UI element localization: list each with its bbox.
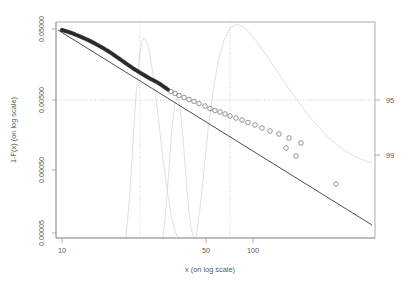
fitted-line [58, 30, 372, 225]
data-point [334, 182, 339, 187]
plot-canvas: 0.05000 0.00500 0.00050 0.00005 1-F(x) (… [0, 0, 412, 285]
data-points-dense [60, 28, 170, 91]
data-point [182, 95, 187, 100]
x-axis: 10 50 100 x (on log scale) [56, 238, 375, 274]
x-tick-label-0: 10 [58, 246, 66, 255]
data-point [268, 129, 273, 134]
band-curve-mid [163, 98, 195, 238]
confidence-band-curves [126, 24, 372, 238]
data-point [294, 154, 299, 159]
plot-frame [56, 22, 375, 238]
data-point [277, 132, 282, 137]
right-label-99: 99 [386, 151, 394, 160]
data-point [246, 120, 251, 125]
data-point [208, 106, 213, 111]
band-curve-right [196, 24, 372, 238]
reference-gridlines [56, 22, 375, 238]
data-points-sparse [169, 89, 339, 186]
y-tick-label-0: 0.05000 [37, 16, 46, 42]
y-axis: 0.05000 0.00500 0.00050 0.00005 1-F(x) (… [9, 16, 56, 246]
data-point [240, 118, 245, 123]
right-axis-labels: 95 99 [375, 96, 394, 160]
x-axis-title: x (on log scale) [185, 265, 235, 274]
y-tick-label-1: 0.00500 [37, 87, 46, 113]
data-point [203, 104, 208, 109]
data-point [197, 101, 202, 106]
data-point [260, 126, 265, 131]
y-tick-label-3: 0.00005 [37, 220, 46, 246]
x-tick-label-2: 100 [247, 246, 259, 255]
data-point [284, 146, 289, 151]
x-tick-label-1: 50 [202, 246, 210, 255]
data-point [223, 112, 228, 117]
y-tick-label-2: 0.00050 [37, 157, 46, 183]
data-point [299, 141, 304, 146]
data-point [253, 123, 258, 128]
data-point [213, 108, 218, 113]
data-point [187, 97, 192, 102]
data-point [234, 116, 239, 121]
data-point [177, 93, 182, 98]
y-axis-title: 1-F(x) (on log scale) [9, 97, 18, 163]
tail-plot-figure: 0.05000 0.00500 0.00050 0.00005 1-F(x) (… [0, 0, 412, 285]
right-label-95: 95 [386, 96, 394, 105]
data-point [218, 110, 223, 115]
data-point [287, 136, 292, 141]
